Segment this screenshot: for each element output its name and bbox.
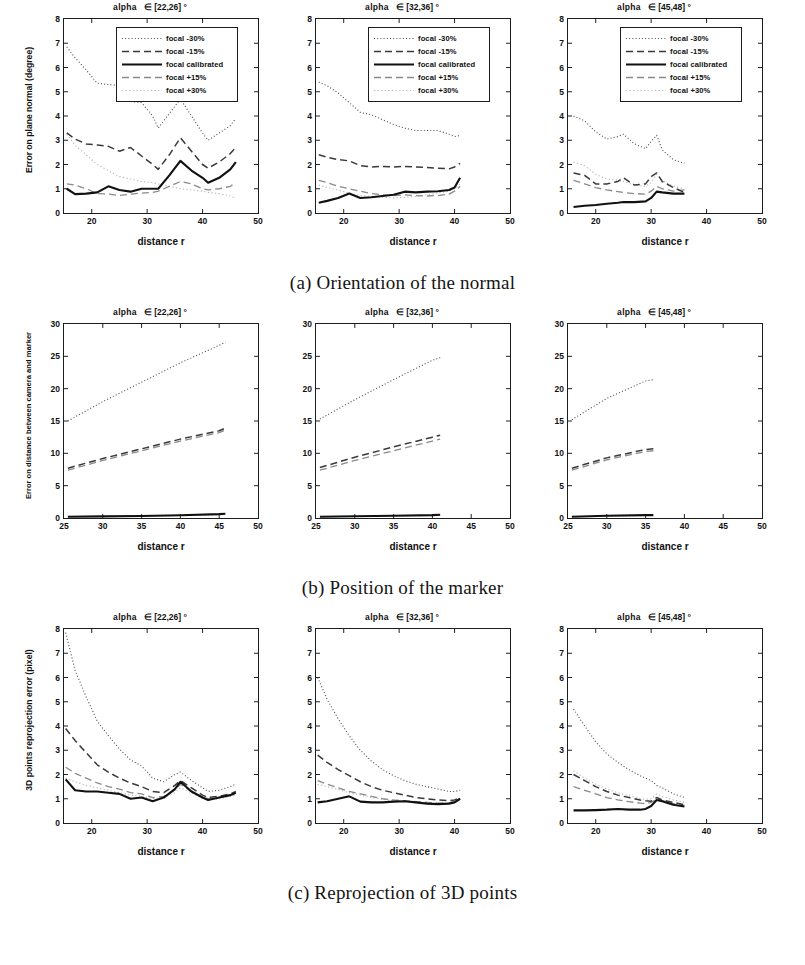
panel-title-range: ∈ [45,48] °	[648, 612, 691, 622]
y-tick-label: 2	[307, 160, 312, 170]
x-tick-label: 45	[466, 521, 475, 531]
legend-item: focal +15%	[373, 71, 485, 84]
y-tick-label: 5	[55, 87, 60, 97]
y-tick-label: 3	[55, 135, 60, 145]
x-tick-label: 35	[641, 521, 650, 531]
panel-title-prefix: alpha	[365, 307, 389, 317]
x-tick-label: 35	[389, 521, 398, 531]
row-panels: alpha∈ [22,26] °3D points reprojection e…	[0, 610, 805, 878]
x-tick-label: 40	[198, 216, 207, 226]
y-tick-label: 5	[55, 697, 60, 707]
y-tick-label: 0	[559, 818, 564, 828]
legend-line-swatch	[121, 72, 163, 83]
series-line	[572, 451, 653, 470]
y-tick-label: 5	[559, 481, 564, 491]
y-tick-label: 2	[307, 770, 312, 780]
series-line	[574, 709, 685, 798]
series-line	[68, 514, 226, 517]
y-tick-label: 5	[55, 481, 60, 491]
y-tick-label: 2	[559, 770, 564, 780]
series-line	[68, 428, 226, 468]
plot-area: 01234567820304050	[567, 628, 763, 824]
panel-title-range: ∈ [45,48] °	[648, 307, 691, 317]
x-axis-label: distance r	[63, 541, 259, 552]
y-tick-label: 0	[307, 208, 312, 218]
plot-area: 01234567820304050focal -30%focal -15%foc…	[567, 18, 763, 214]
legend-item-label: focal -15%	[415, 47, 457, 56]
y-tick-label: 0	[55, 208, 60, 218]
x-tick-label: 30	[646, 216, 655, 226]
row-caption: (c) Reprojection of 3D points	[0, 878, 805, 904]
panel-title-range: ∈ [22,26] °	[144, 307, 187, 317]
y-tick-label: 1	[55, 184, 60, 194]
x-axis-label: distance r	[63, 236, 259, 247]
x-axis-label: distance r	[567, 846, 763, 857]
legend-item: focal calibrated	[625, 58, 737, 71]
y-tick-label: 7	[559, 648, 564, 658]
series-line	[67, 133, 236, 169]
x-tick-label: 30	[394, 826, 403, 836]
x-tick-label: 50	[253, 216, 262, 226]
legend-line-swatch	[625, 85, 667, 96]
y-tick-label: 15	[303, 416, 312, 426]
y-tick-label: 7	[55, 648, 60, 658]
chart-panel-c1: alpha∈ [32,36] °01234567820304050distanc…	[278, 610, 526, 878]
legend-line-swatch	[121, 33, 163, 44]
series-line	[68, 430, 226, 470]
row-panels: alpha∈ [22,26] °Error on plane normal (d…	[0, 0, 805, 268]
series-line	[574, 192, 685, 207]
y-tick-label: 1	[307, 794, 312, 804]
y-tick-label: 20	[51, 384, 60, 394]
legend-line-swatch	[121, 85, 163, 96]
y-tick-label: 30	[303, 319, 312, 329]
series-line	[318, 678, 460, 792]
y-tick-label: 8	[559, 14, 564, 24]
legend-line-swatch	[373, 85, 415, 96]
x-tick-label: 30	[142, 216, 151, 226]
panel-title-range: ∈ [22,26] °	[144, 2, 187, 12]
legend-line-swatch	[373, 72, 415, 83]
x-tick-label: 30	[394, 216, 403, 226]
x-tick-label: 30	[646, 826, 655, 836]
y-tick-label: 4	[55, 721, 60, 731]
y-tick-label: 3	[559, 135, 564, 145]
panel-title-range: ∈ [22,26] °	[144, 612, 187, 622]
y-tick-label: 1	[307, 184, 312, 194]
chart-panel-a2: alpha∈ [45,48] °01234567820304050focal -…	[530, 0, 778, 268]
series-line	[66, 633, 236, 792]
y-tick-label: 10	[303, 448, 312, 458]
x-tick-label: 20	[339, 826, 348, 836]
y-tick-label: 15	[51, 416, 60, 426]
panel-title-prefix: alpha	[365, 612, 389, 622]
legend-item: focal calibrated	[121, 58, 233, 71]
figure-row-2: alpha∈ [22,26] °3D points reprojection e…	[0, 610, 805, 915]
panel-title-range: ∈ [32,36] °	[396, 612, 439, 622]
legend-item: focal calibrated	[373, 58, 485, 71]
panel-title: alpha∈ [32,36] °	[278, 2, 526, 12]
series-line	[320, 439, 440, 470]
y-tick-label: 5	[307, 87, 312, 97]
x-tick-label: 20	[87, 826, 96, 836]
legend-item-label: focal calibrated	[415, 60, 475, 69]
legend-item-label: focal -30%	[415, 34, 457, 43]
y-tick-label: 25	[51, 351, 60, 361]
chart-panel-a1: alpha∈ [32,36] °01234567820304050focal -…	[278, 0, 526, 268]
legend-line-swatch	[373, 33, 415, 44]
x-tick-label: 50	[253, 826, 262, 836]
panel-title-prefix: alpha	[617, 612, 641, 622]
x-axis-label: distance r	[63, 846, 259, 857]
legend-item-label: focal +30%	[163, 86, 206, 95]
y-tick-label: 3	[55, 745, 60, 755]
legend-item: focal -15%	[373, 45, 485, 58]
y-tick-label: 8	[307, 624, 312, 634]
y-tick-label: 1	[559, 184, 564, 194]
x-tick-label: 50	[505, 216, 514, 226]
y-tick-label: 6	[307, 63, 312, 73]
y-tick-label: 5	[307, 481, 312, 491]
legend-line-swatch	[625, 33, 667, 44]
series-line	[574, 775, 685, 805]
y-tick-label: 5	[307, 697, 312, 707]
y-tick-label: 7	[307, 648, 312, 658]
x-tick-label: 35	[137, 521, 146, 531]
legend-item-label: focal +15%	[415, 73, 458, 82]
